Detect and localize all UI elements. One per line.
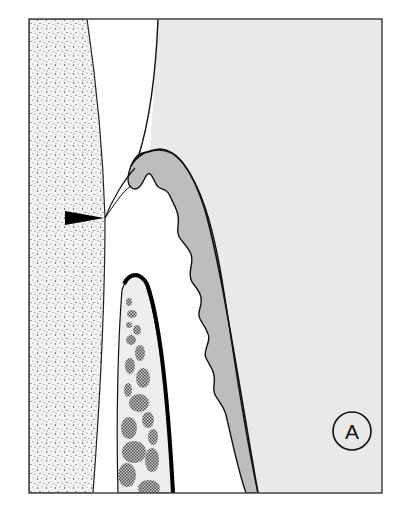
panel-label-text: A [345,420,359,443]
gingiva-diagram: A [0,0,408,521]
tooth-surface [29,19,105,493]
